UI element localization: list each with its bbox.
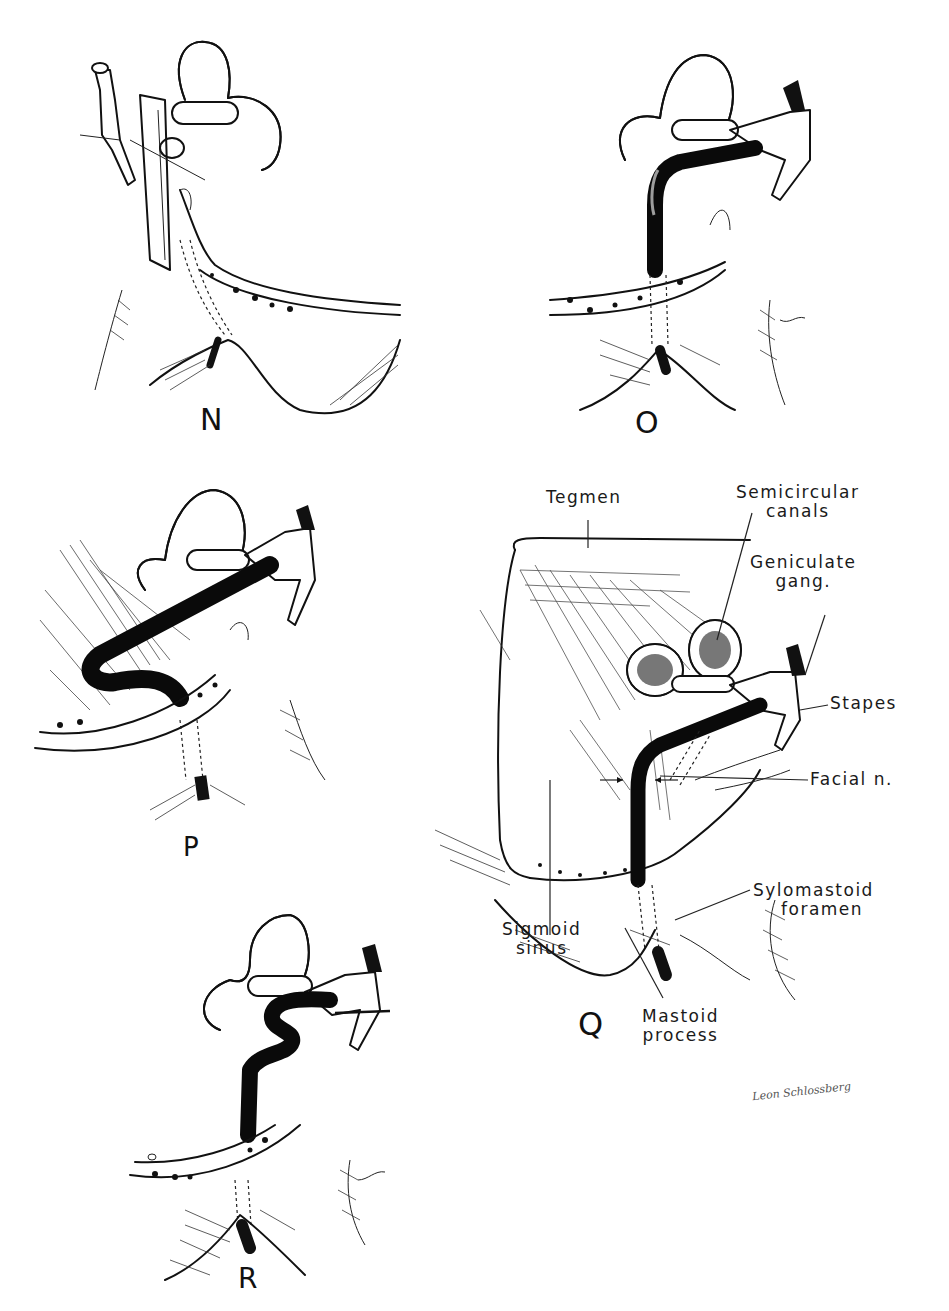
label-semicircular-line2: canals (736, 502, 859, 521)
label-stylomastoid-line1: Sylomastoid (753, 881, 874, 900)
panel-q: Tegmen Semicircular canals Geniculate ga… (420, 480, 949, 1040)
label-semicircular-canals: Semicircular canals (736, 483, 859, 521)
label-mastoid-line2: process (642, 1026, 719, 1045)
label-mastoid-process: Mastoid process (642, 1007, 719, 1045)
label-facial-nerve: Facial n. (810, 770, 893, 789)
panel-p: P (0, 470, 420, 880)
panel-label-r: R (238, 1262, 257, 1295)
label-stapes: Stapes (830, 694, 897, 713)
label-mastoid-line1: Mastoid (642, 1007, 719, 1026)
label-sigmoid-line2: sinus (502, 939, 581, 958)
panel-label-p: P (183, 832, 199, 862)
panel-r: R (100, 880, 440, 1311)
panel-n-drawing (0, 0, 450, 440)
label-stylomastoid-foramen: Sylomastoid foramen (753, 881, 874, 919)
label-semicircular-line1: Semicircular (736, 483, 859, 502)
panel-o-drawing (480, 0, 949, 440)
panel-label-o: O (635, 405, 659, 440)
label-stylomastoid-line2: foramen (753, 900, 874, 919)
label-geniculate-ganglion: Geniculate gang. (750, 553, 857, 591)
label-sigmoid-line1: Sigmoid (502, 920, 581, 939)
label-tegmen: Tegmen (546, 488, 622, 507)
panel-o: O (480, 0, 949, 440)
panel-q-drawing (420, 480, 949, 1040)
panel-label-q: Q (578, 1005, 603, 1043)
artist-signature: Leon Schlossberg (752, 1080, 852, 1103)
panel-label-n: N (200, 402, 222, 437)
label-sigmoid-sinus: Sigmoid sinus (502, 920, 581, 958)
panel-r-drawing (100, 880, 440, 1311)
panel-p-drawing (0, 470, 420, 880)
panel-n: N (0, 0, 450, 440)
label-geniculate-line1: Geniculate (750, 553, 857, 572)
label-geniculate-line2: gang. (750, 572, 857, 591)
